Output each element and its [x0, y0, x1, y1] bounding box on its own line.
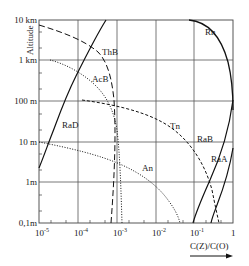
label-An: An [142, 163, 153, 173]
svg-text:0,1m: 0,1m [19, 218, 37, 228]
svg-text:10-5: 10-5 [35, 227, 49, 238]
svg-text:10-3: 10-3 [113, 227, 127, 238]
altitude-concentration-chart: Rn ThB AcB RaD Tn RaB RaA An 10 km 1 km … [0, 0, 249, 266]
label-ThB: ThB [102, 47, 118, 57]
curve-Tn [82, 100, 219, 223]
label-RaB: RaB [197, 134, 213, 144]
svg-text:10 m: 10 m [19, 137, 37, 147]
x-axis-title: C(Z)/C(O) [190, 241, 229, 251]
arrow-right-icon [190, 254, 233, 259]
svg-text:100 m: 100 m [14, 96, 37, 106]
label-RaA: RaA [211, 154, 228, 164]
label-Tn: Tn [170, 121, 180, 131]
svg-text:1m: 1m [25, 177, 37, 187]
label-AcB: AcB [92, 74, 109, 84]
curve-An [39, 142, 180, 223]
svg-text:10-4: 10-4 [74, 227, 88, 238]
svg-text:10 km: 10 km [14, 15, 37, 25]
svg-text:10-2: 10-2 [152, 227, 166, 238]
y-axis-title: Altitude [25, 25, 35, 55]
curve-RaD [39, 20, 106, 168]
label-Rn: Rn [205, 27, 216, 37]
label-RaD: RaD [62, 120, 79, 130]
svg-text:1 km: 1 km [19, 55, 37, 65]
svg-text:10-1: 10-1 [190, 227, 204, 238]
svg-text:1: 1 [231, 228, 236, 238]
curve-AcB [50, 60, 122, 223]
x-axis-labels: 10-5 10-4 10-3 10-2 10-1 1 [35, 227, 236, 238]
